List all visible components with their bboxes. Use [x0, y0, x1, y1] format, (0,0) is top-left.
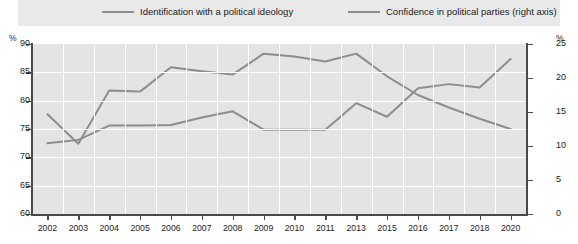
x-axis-line	[31, 214, 528, 216]
x-axis-tick	[449, 215, 450, 220]
x-axis-tick	[264, 215, 265, 220]
left-axis-label: 90	[0, 38, 30, 48]
x-axis-tick	[511, 215, 512, 220]
x-axis-tick	[325, 215, 326, 220]
right-axis-line	[526, 43, 528, 215]
right-axis-tick	[527, 112, 533, 113]
x-axis-tick	[233, 215, 234, 220]
legend: Identification with a political ideology…	[18, 0, 560, 26]
gridline-vertical	[341, 44, 342, 214]
gridline-vertical	[433, 44, 434, 214]
x-axis-tick	[294, 215, 295, 220]
gridline-vertical	[310, 44, 311, 214]
left-axis-label: 65	[0, 180, 30, 190]
x-axis-tick	[140, 215, 141, 220]
right-axis-label: 25	[556, 38, 578, 48]
gridline-vertical	[94, 44, 95, 214]
left-axis-label: 80	[0, 95, 30, 105]
plot-area	[32, 44, 526, 214]
left-axis-label: 75	[0, 123, 30, 133]
legend-swatch-confidence	[348, 11, 380, 13]
right-axis-label: 10	[556, 140, 578, 150]
right-axis-tick	[527, 146, 533, 147]
x-axis-tick	[480, 215, 481, 220]
x-axis-tick	[171, 215, 172, 220]
x-axis-tick	[356, 215, 357, 220]
gridline-vertical	[279, 44, 280, 214]
legend-item-confidence: Confidence in political parties (right a…	[348, 6, 557, 17]
gridline-vertical	[248, 44, 249, 214]
legend-label-confidence: Confidence in political parties (right a…	[386, 6, 557, 17]
x-axis-label: 2020	[491, 223, 531, 233]
x-axis-tick	[418, 215, 419, 220]
gridline-vertical	[403, 44, 404, 214]
gridline-vertical	[186, 44, 187, 214]
right-axis-tick	[527, 44, 533, 45]
legend-item-ideology: Identification with a political ideology	[102, 6, 293, 17]
gridline-vertical	[217, 44, 218, 214]
x-axis-tick	[109, 215, 110, 220]
left-axis-label: 60	[0, 208, 30, 218]
gridline-vertical	[125, 44, 126, 214]
x-axis-tick	[47, 215, 48, 220]
gridline-vertical	[63, 44, 64, 214]
x-axis-tick	[387, 215, 388, 220]
legend-label-ideology: Identification with a political ideology	[140, 6, 293, 17]
legend-swatch-ideology	[102, 11, 134, 13]
right-axis-tick	[527, 180, 533, 181]
gridline-vertical	[156, 44, 157, 214]
right-axis-tick	[527, 214, 533, 215]
gridline-vertical	[372, 44, 373, 214]
right-axis-label: 0	[556, 208, 578, 218]
left-axis-label: 85	[0, 66, 30, 76]
x-axis-tick	[78, 215, 79, 220]
right-axis-tick	[527, 78, 533, 79]
x-axis-tick	[202, 215, 203, 220]
gridline-vertical	[495, 44, 496, 214]
right-axis-label: 5	[556, 174, 578, 184]
right-axis-label: 15	[556, 106, 578, 116]
chart-container: Identification with a political ideology…	[0, 0, 578, 244]
left-axis-label: 70	[0, 151, 30, 161]
gridline-vertical	[464, 44, 465, 214]
right-axis-label: 20	[556, 72, 578, 82]
